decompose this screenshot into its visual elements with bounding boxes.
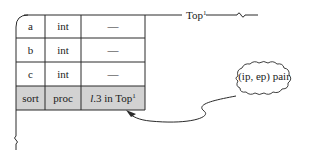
svg-text:l.3 in Top1: l.3 in Top1 (90, 92, 136, 104)
table-row: b int — (28, 44, 120, 56)
table-corner (16, 15, 28, 27)
table-row: a int — (28, 20, 119, 32)
svg-text:a: a (28, 20, 33, 32)
svg-text:—: — (107, 44, 120, 56)
table-row: c int — (28, 68, 119, 80)
svg-text:sort: sort (22, 92, 39, 104)
svg-text:c: c (28, 68, 33, 80)
arrowhead-icon (126, 110, 136, 117)
svg-text:proc: proc (53, 92, 73, 104)
symbol-table-diagram: Top1 a int — b int — c int — sort proc l… (0, 0, 331, 158)
svg-text:int: int (57, 20, 69, 32)
top-line-break-icon (206, 13, 258, 17)
svg-text:—: — (107, 20, 120, 32)
left-edge-break-icon (15, 110, 18, 150)
svg-text:—: — (107, 68, 120, 80)
top-label: Top1 (186, 9, 207, 21)
svg-text:b: b (28, 44, 34, 56)
svg-text:int: int (57, 44, 69, 56)
callout-label: (ip, ep) pair (238, 70, 290, 83)
svg-text:int: int (57, 68, 69, 80)
